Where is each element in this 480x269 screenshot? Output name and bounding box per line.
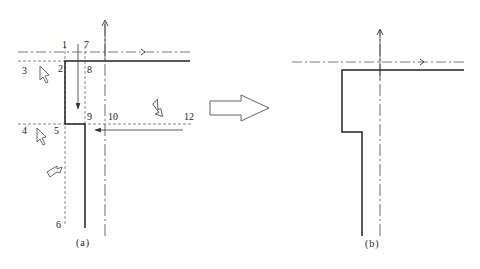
point-label-9: 9 (87, 111, 92, 122)
point-label-4: 4 (22, 125, 27, 136)
hollow-pointer-arrow-icon-3 (151, 99, 164, 118)
point-label-1: 1 (62, 39, 67, 50)
panel-a: 1 2 3 4 5 6 7 8 9 10 12 (a) (18, 20, 194, 249)
feed-arrow-left-head-icon (95, 128, 101, 132)
feed-arrow-down-head-icon (76, 103, 80, 109)
hollow-pointer-arrow-icon-1 (40, 66, 49, 83)
diagram-canvas: 1 2 3 4 5 6 7 8 9 10 12 (a) (b) (0, 0, 480, 269)
point-label-8: 8 (87, 64, 92, 75)
hollow-right-arrow-icon (210, 95, 269, 121)
point-label-3: 3 (22, 65, 27, 76)
point-label-10: 10 (108, 111, 118, 122)
part-outline (65, 61, 190, 228)
hollow-pointer-arrow-icon-4 (47, 166, 62, 177)
panel-b: (b) (292, 29, 466, 250)
caption-b: (b) (365, 238, 380, 250)
hollow-pointer-arrow-icon-2 (37, 128, 46, 145)
point-label-12: 12 (184, 111, 194, 122)
caption-a: (a) (76, 237, 90, 249)
point-label-7: 7 (84, 39, 89, 50)
diagram-svg: 1 2 3 4 5 6 7 8 9 10 12 (a) (b) (0, 0, 480, 269)
point-label-2: 2 (58, 63, 63, 74)
centerline-direction-arrow (141, 49, 145, 55)
point-label-5: 5 (54, 125, 59, 136)
part-outline-b (342, 70, 464, 236)
point-label-6: 6 (56, 219, 61, 230)
